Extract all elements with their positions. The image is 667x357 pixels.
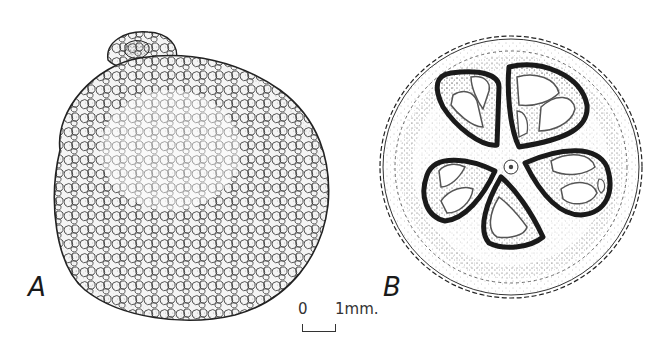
scale-bar: 0 1mm. <box>296 302 396 342</box>
panel-label-b: B <box>383 274 401 300</box>
panel-label-a: A <box>28 274 46 300</box>
scale-bar-zero-label: 0 <box>298 302 308 317</box>
panel-a-fruit-exterior <box>40 32 340 340</box>
section-central-axis <box>504 160 518 174</box>
scale-bar-bracket <box>302 324 336 332</box>
scale-bar-unit-label: 1mm. <box>335 302 379 317</box>
panel-b-fruit-section <box>380 36 642 298</box>
